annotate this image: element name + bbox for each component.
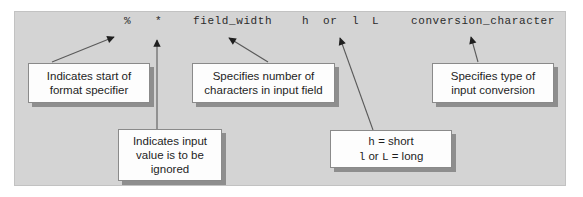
token-h: h (302, 15, 309, 27)
callout-percent-line-1: Indicates start of (47, 69, 131, 83)
token-L: L (372, 15, 379, 27)
callout-asterisk: Indicates input value is to be ignored (118, 129, 222, 181)
callout-field-width: Specifies number of characters in input … (192, 63, 335, 103)
token-or: or (323, 15, 337, 27)
length-modifier-h-token: h (368, 136, 375, 148)
token-l: l (352, 15, 359, 27)
format-specifier-row: % * field_width h or l L conversion_char… (0, 15, 583, 29)
length-modifier-conjunction: or (365, 150, 382, 162)
length-modifier-l-desc: = long (388, 150, 423, 162)
callout-length-modifier: h = short l or L = long (330, 130, 452, 168)
callout-conversion-line-1: Specifies type of (451, 69, 535, 83)
callout-length-modifier-line-1: h = short (368, 134, 413, 149)
callout-conversion-line-2: input conversion (451, 83, 535, 97)
length-modifier-h-desc: = short (375, 135, 414, 147)
format-specifier-diagram: % * field_width h or l L conversion_char… (0, 0, 583, 197)
token-percent: % (124, 15, 131, 27)
callout-field-width-line-1: Specifies number of (213, 69, 315, 83)
callout-asterisk-line-2: value is to be (136, 148, 204, 162)
token-field-width: field_width (193, 15, 272, 27)
callout-conversion: Specifies type of input conversion (432, 63, 554, 103)
callout-asterisk-line-1: Indicates input (133, 134, 207, 148)
callout-percent-line-2: format specifier (50, 83, 129, 97)
callout-field-width-line-2: characters in input field (204, 83, 322, 97)
token-conversion-character: conversion_character (411, 15, 555, 27)
callout-asterisk-line-3: ignored (151, 162, 189, 176)
token-asterisk: * (155, 15, 162, 27)
callout-percent: Indicates start of format specifier (28, 63, 150, 103)
callout-length-modifier-line-2: l or L = long (359, 149, 424, 164)
